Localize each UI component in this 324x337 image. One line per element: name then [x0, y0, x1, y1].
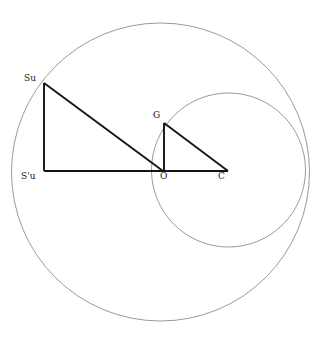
inner-circle [152, 93, 306, 247]
segment-su-o [44, 83, 163, 171]
vertex-label-g: G [153, 110, 160, 120]
segment-g-c [164, 123, 228, 171]
vertex-label-s-prime-u: S'u [21, 171, 35, 181]
vertex-label-su: Su [24, 73, 36, 83]
vertex-label-o: O [160, 171, 167, 181]
figure-canvas [0, 0, 324, 337]
geometry-figure: Su S'u O C G [0, 0, 324, 337]
vertex-label-c: C [218, 171, 225, 181]
